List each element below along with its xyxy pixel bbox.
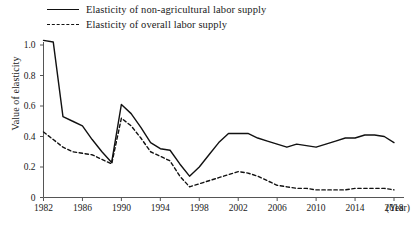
x-tick-label: 2002 bbox=[218, 203, 258, 213]
x-tick-label: 1986 bbox=[62, 203, 102, 213]
x-tick-label: 1982 bbox=[24, 203, 64, 213]
y-axis-title: Value of elasticity bbox=[10, 46, 21, 142]
y-tick-label: 0.2 bbox=[10, 162, 36, 172]
x-tick-label: 2006 bbox=[257, 203, 297, 213]
axis-lines bbox=[44, 42, 405, 198]
plot-area bbox=[0, 0, 420, 228]
x-tick-label: 2014 bbox=[335, 203, 375, 213]
x-tick-label: 2010 bbox=[296, 203, 336, 213]
series-line-non-agricultural bbox=[44, 40, 395, 176]
y-tick-label: 0 bbox=[10, 193, 36, 203]
x-tick-label: 1994 bbox=[140, 203, 180, 213]
elasticity-line-chart: Elasticity of non-agricultural labor sup… bbox=[0, 0, 420, 228]
x-axis-unit-label: (Year) bbox=[386, 203, 410, 213]
x-tick-marks bbox=[44, 198, 395, 202]
y-tick-marks bbox=[40, 45, 44, 198]
series-line-overall bbox=[44, 118, 395, 190]
x-tick-label: 1990 bbox=[101, 203, 141, 213]
x-tick-label: 1998 bbox=[179, 203, 219, 213]
